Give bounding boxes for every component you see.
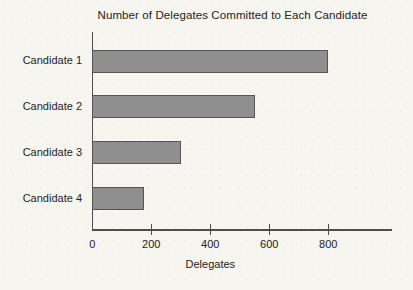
chart-page: Number of Delegates Committed to Each Ca… [0,0,413,290]
x-tick [269,224,271,235]
bar [92,187,144,210]
x-axis-label: Delegates [186,258,236,270]
chart-title: Number of Delegates Committed to Each Ca… [52,9,413,21]
bar [92,50,328,73]
x-tick [328,224,330,235]
bar [92,141,181,164]
category-label: Candidate 3 [0,146,82,158]
x-tick [151,224,153,235]
x-tick-label: 200 [142,238,160,250]
category-label: Candidate 1 [0,54,82,66]
x-tick-label: 400 [201,238,219,250]
bar [92,95,254,118]
x-tick-label: 800 [319,238,337,250]
x-axis [92,229,393,231]
x-tick-label: 600 [260,238,278,250]
category-label: Candidate 4 [0,192,82,204]
x-tick-label: 0 [89,238,95,250]
x-tick [210,224,212,235]
category-label: Candidate 2 [0,100,82,112]
